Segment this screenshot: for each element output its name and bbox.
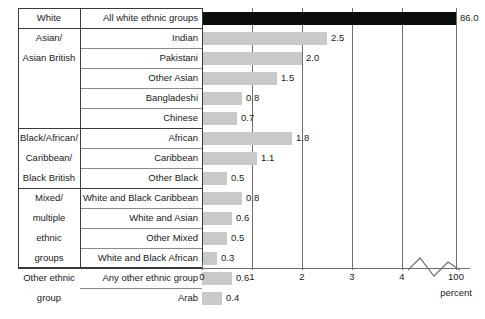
category-label-cell: Caribbean [80,148,202,168]
row-divider-line [80,68,202,69]
ethnic-group-cell: Asian/ [18,28,80,48]
ethnic-group-cell: White [18,8,80,28]
bar [202,152,257,165]
tick-label: 3 [349,272,354,282]
tick-mark [202,262,203,270]
bar-value-label: 2.5 [327,28,344,48]
group-divider-line [18,188,202,189]
bar-value-label: 86.0 [456,8,479,28]
ethnic-group-cell: groups [18,248,80,268]
table-row: Black BritishOther Black [18,168,202,188]
table-row: WhiteAll white ethnic groups [18,8,202,28]
table-row: Caribbean/Caribbean [18,148,202,168]
group-divider-line [18,128,202,129]
bar [202,272,232,285]
bar [202,132,292,145]
tick-mark [252,262,253,270]
table-row: ethnicOther Mixed [18,228,202,248]
ethnic-group-cell: Black/African/ [18,128,80,148]
bar [202,292,222,305]
ethnic-group-cell: Caribbean/ [18,148,80,168]
table-row: Other ethnicAny other ethnic group [18,268,202,288]
ethnic-group-cell [18,88,80,108]
bar-value-label: 1.8 [292,128,309,148]
category-label-cell: Other Asian [80,68,202,88]
bar-value-label: 0.7 [237,108,254,128]
axis-break-icon [408,256,460,278]
category-label-cell: Arab [80,288,202,308]
tick-label: 4 [399,272,404,282]
ethnic-group-cell: ethnic [18,228,80,248]
category-label-cell: White and Black African [80,248,202,268]
bar-value-label: 0.3 [217,248,234,268]
row-divider-line [80,48,202,49]
table-row: multipleWhite and Asian [18,208,202,228]
row-divider-line [80,288,202,289]
table-row: groupsWhite and Black African [18,248,202,268]
axis-unit-label: percent [440,288,472,298]
row-divider-line [80,108,202,109]
tick-mark [402,262,403,270]
group-divider-line [18,268,202,269]
bar-value-label: 0.8 [242,88,259,108]
table-column-divider [80,8,81,268]
ethnic-group-cell [18,108,80,128]
tick-mark [352,262,353,270]
bar-value-label: 1.5 [277,68,294,88]
bar [202,252,217,265]
bar-value-label: 1.1 [257,148,274,168]
ethnic-group-cell: Mixed/ [18,188,80,208]
gridline [456,8,457,268]
category-label-cell: Chinese [80,108,202,128]
category-label-cell: African [80,128,202,148]
table-row: Black/African/African [18,128,202,148]
ethnicity-bar-chart: WhiteAll white ethnic groupsAsian/Indian… [0,0,485,319]
bar-value-label: 0.6 [232,208,249,228]
bar [202,212,232,225]
bar [202,172,227,185]
row-divider-line [80,228,202,229]
bar [202,72,277,85]
ethnic-group-cell: group [18,288,80,308]
group-divider-line [18,28,202,29]
bar-value-label: 0.4 [222,288,239,308]
bar [202,52,302,65]
gridline [352,8,353,268]
table-row: Asian BritishPakistani [18,48,202,68]
bar [202,232,227,245]
ethnic-group-cell: multiple [18,208,80,228]
category-label-cell: Other Mixed [80,228,202,248]
row-divider-line [80,148,202,149]
bar-value-label: 0.5 [227,228,244,248]
table-row: Mixed/White and Black Caribbean [18,188,202,208]
bar [202,32,327,45]
category-label-cell: White and Asian [80,208,202,228]
bar-value-label: 0.5 [227,168,244,188]
category-label-cell: Bangladeshi [80,88,202,108]
category-table: WhiteAll white ethnic groupsAsian/Indian… [18,8,202,268]
category-label-cell: Any other ethnic group [80,268,202,288]
bar-value-label: 0.8 [242,188,259,208]
row-divider-line [80,88,202,89]
row-divider-line [80,208,202,209]
table-row: groupArab [18,288,202,308]
table-row: Bangladeshi [18,88,202,108]
tick-label: 0 [199,272,204,282]
axis-zero-line [202,8,203,268]
row-divider-line [80,248,202,249]
category-label-cell: Other Black [80,168,202,188]
row-divider-line [80,168,202,169]
tick-label: 2 [299,272,304,282]
ethnic-group-cell: Asian British [18,48,80,68]
category-label-cell: All white ethnic groups [80,8,202,28]
bar-value-label: 0.6 [232,268,249,288]
category-label-cell: White and Black Caribbean [80,188,202,208]
bar [202,92,242,105]
gridline [402,8,403,268]
bar [202,192,242,205]
table-row: Asian/Indian [18,28,202,48]
ethnic-group-cell [18,68,80,88]
table-row: Other Asian [18,68,202,88]
plot-area: 86.02.52.01.50.80.71.81.10.50.80.60.50.3… [202,8,470,268]
ethnic-group-cell: Black British [18,168,80,188]
